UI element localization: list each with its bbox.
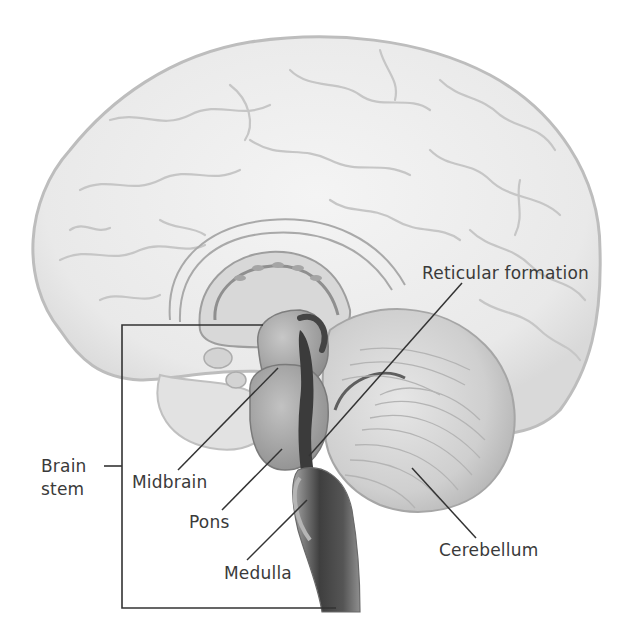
medulla (293, 468, 360, 612)
pons (250, 364, 328, 470)
label-cerebellum: Cerebellum (439, 539, 538, 561)
label-brain-stem-line2: stem (41, 478, 84, 500)
label-midbrain: Midbrain (132, 471, 207, 493)
pons-leader (222, 449, 282, 510)
brain-diagram: Reticular formation Brain stem Midbrain … (0, 0, 628, 637)
label-brain-stem-line1: Brain (41, 455, 87, 477)
label-pons: Pons (189, 511, 229, 533)
label-reticular-formation: Reticular formation (422, 262, 589, 284)
label-medulla: Medulla (224, 562, 292, 584)
